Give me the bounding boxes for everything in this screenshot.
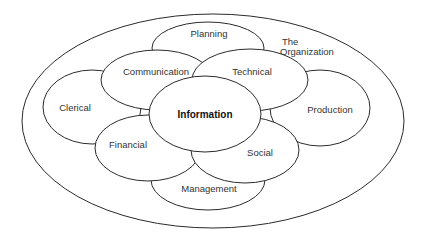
production-label: Production	[307, 104, 352, 115]
planning-label: Planning	[191, 28, 228, 39]
information-label: Information	[178, 109, 233, 120]
organization-label-line2: Organization	[280, 46, 334, 57]
technical-label: Technical	[232, 66, 272, 77]
clerical-label: Clerical	[59, 102, 91, 113]
management-label: Management	[181, 183, 237, 194]
organization-diagram: Planning Communication Technical Clerica…	[0, 0, 426, 239]
communication-label: Communication	[123, 66, 189, 77]
financial-label: Financial	[109, 139, 147, 150]
social-label: Social	[247, 147, 273, 158]
